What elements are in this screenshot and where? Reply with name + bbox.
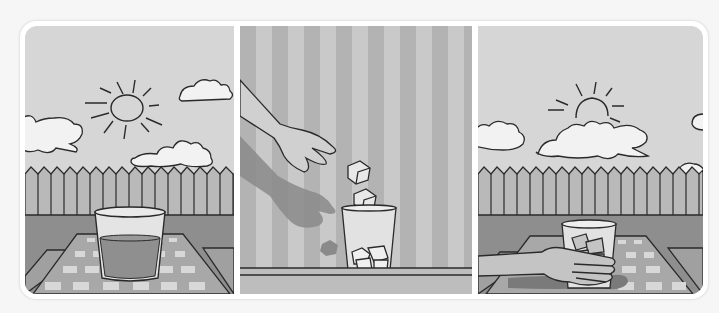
- panel-3-holding-iced-drink: A hand holds the glass with ice cubes on…: [478, 26, 703, 294]
- counter: [240, 268, 472, 294]
- picket-fence: [478, 167, 703, 216]
- panel-1-glass-in-sun: Sunny backyard: a glass of liquid sits o…: [25, 26, 234, 294]
- panel-2-adding-ice: A hand drops ice cubes into a glass agai…: [240, 26, 472, 294]
- glass-of-liquid: [95, 207, 165, 281]
- glass-with-ice: [342, 205, 396, 270]
